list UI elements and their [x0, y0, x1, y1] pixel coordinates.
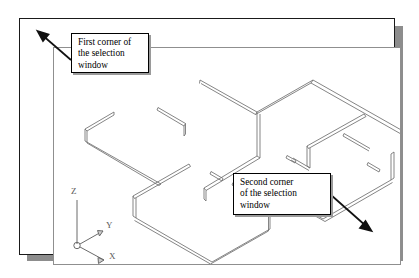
callout-second-line-2: of the selection [240, 188, 325, 199]
callout-first-line-3: window [78, 60, 143, 71]
callout-first-line-1: First corner of [78, 37, 143, 48]
ucs-axis-icon [54, 48, 400, 264]
callout-first-corner: First corner of the selection window [71, 33, 149, 73]
diagram-stage: Z Y X First corner of the selection wind… [0, 0, 419, 278]
callout-second-corner: Second corner of the selection window [233, 173, 331, 215]
viewport-frame: Z Y X [53, 47, 401, 265]
callout-first-line-2: the selection [78, 48, 143, 59]
callout-second-line-3: window [240, 200, 325, 211]
callout-second-line-1: Second corner [240, 177, 325, 188]
